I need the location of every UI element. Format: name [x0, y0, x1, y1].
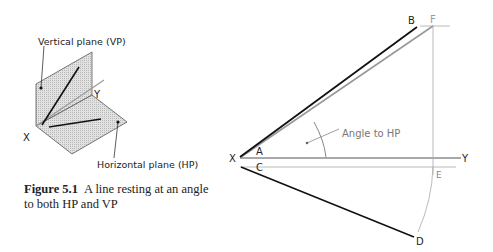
figure-caption: Figure 5.1A line resting at an angle to … — [24, 182, 214, 212]
point-c-label: C — [256, 162, 263, 173]
x-label-left: X — [23, 132, 30, 143]
x-label-right: X — [229, 153, 236, 164]
vp-label: Vertical plane (VP) — [38, 36, 126, 47]
y-label-left: Y — [93, 89, 101, 100]
left-isometric-diagram: Vertical plane (VP) Horizontal plane (HP… — [0, 0, 493, 252]
hp-leader-dot — [116, 120, 119, 123]
angle-leader-dot — [306, 142, 309, 145]
vp-leader-dot — [39, 86, 42, 89]
af-true-length — [241, 26, 433, 157]
angle-label: Angle to HP — [342, 128, 400, 139]
right-projection-diagram: Angle to HP X Y A C B F E D — [229, 14, 469, 247]
swing-arc — [418, 167, 433, 232]
point-f-label: F — [430, 14, 436, 25]
point-e-label: E — [436, 170, 442, 180]
cd-plan — [241, 167, 414, 237]
point-a-label: A — [256, 146, 263, 157]
point-d-label: D — [416, 236, 424, 247]
angle-leader — [307, 129, 339, 143]
hp-label: Horizontal plane (HP) — [97, 159, 198, 170]
point-b-label: B — [408, 15, 415, 26]
y-label-right: Y — [461, 153, 469, 164]
figure-number: Figure 5.1 — [24, 182, 78, 196]
